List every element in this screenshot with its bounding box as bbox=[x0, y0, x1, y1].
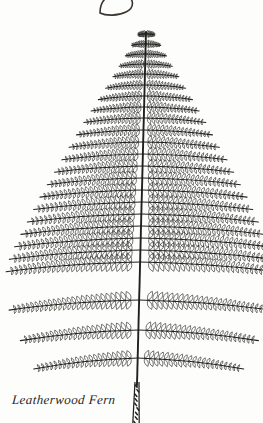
fern-illustration bbox=[0, 0, 263, 423]
cropped-script-mark bbox=[96, 0, 140, 17]
botanical-plate: Leatherwood Fern bbox=[0, 0, 263, 423]
plate-caption: Leatherwood Fern bbox=[11, 392, 116, 408]
